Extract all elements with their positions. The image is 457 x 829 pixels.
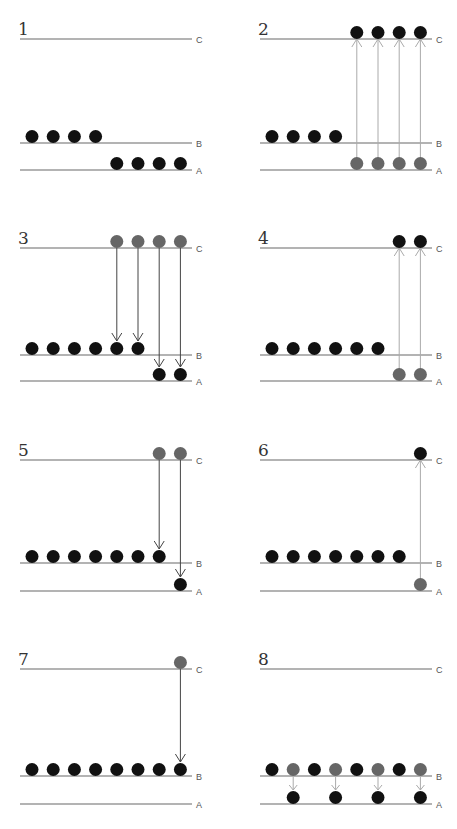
panel-number: 1 (18, 19, 29, 39)
level-label-c: C (196, 456, 203, 466)
excited-particle-b (414, 763, 427, 776)
panel-5: 5CBA (18, 440, 203, 597)
particle-b (287, 550, 300, 563)
particle-b (287, 342, 300, 355)
excited-particle-c (153, 235, 166, 248)
panel-4: 4CBA (258, 228, 443, 387)
excited-particle-a (414, 578, 427, 591)
level-label-a: A (436, 587, 442, 597)
panel-number: 2 (258, 19, 269, 39)
particle-b (329, 550, 342, 563)
particle-b (89, 130, 102, 143)
particle-a (110, 157, 123, 170)
arrow-up-icon (415, 248, 425, 370)
level-label-a: A (436, 377, 442, 387)
particle-a (414, 791, 427, 804)
particle-c (393, 235, 406, 248)
level-label-c: C (196, 35, 203, 45)
arrow-up-icon (352, 39, 362, 159)
excited-particle-a (350, 157, 363, 170)
panel-2: 2CBA (258, 19, 443, 176)
arrow-down-icon (289, 777, 297, 790)
arrow-down-icon (175, 460, 185, 577)
particle-b (47, 342, 60, 355)
excited-particle-c (110, 235, 123, 248)
particle-b (26, 130, 39, 143)
particle-b (308, 763, 321, 776)
level-label-b: B (436, 772, 442, 782)
level-label-b: B (196, 139, 202, 149)
particle-b (132, 342, 145, 355)
arrow-down-icon (374, 777, 382, 790)
level-label-a: A (196, 377, 202, 387)
arrow-down-icon (175, 248, 185, 367)
particle-a (174, 578, 187, 591)
particle-b (174, 763, 187, 776)
particle-b (132, 550, 145, 563)
panel-6: 6CBA (258, 440, 443, 597)
level-label-a: A (436, 166, 442, 176)
excited-particle-c (174, 235, 187, 248)
arrow-up-icon (394, 248, 404, 370)
level-label-c: C (196, 244, 203, 254)
particle-b (26, 342, 39, 355)
particle-a (174, 368, 187, 381)
level-label-b: B (196, 351, 202, 361)
panel-number: 3 (18, 228, 29, 248)
excited-particle-a (393, 157, 406, 170)
particle-b (393, 763, 406, 776)
particle-b (26, 763, 39, 776)
particle-b (68, 763, 81, 776)
arrow-down-icon (112, 248, 122, 341)
arrow-up-icon (415, 460, 425, 580)
level-label-b: B (436, 351, 442, 361)
particle-b (47, 550, 60, 563)
particle-b (308, 342, 321, 355)
excited-particle-c (174, 447, 187, 460)
particle-b (266, 342, 279, 355)
excited-particle-c (174, 656, 187, 669)
particle-b (110, 550, 123, 563)
excited-particle-b (287, 763, 300, 776)
excited-particle-a (372, 157, 385, 170)
level-label-a: A (196, 166, 202, 176)
level-label-c: C (436, 244, 443, 254)
level-label-a: A (196, 800, 202, 810)
level-label-b: B (196, 559, 202, 569)
panel-3: 3CBA (18, 228, 203, 387)
level-label-c: C (436, 35, 443, 45)
arrow-down-icon (154, 460, 164, 549)
excited-particle-c (132, 235, 145, 248)
particle-b (329, 342, 342, 355)
particle-b (110, 342, 123, 355)
particle-c (350, 26, 363, 39)
excited-particle-a (414, 157, 427, 170)
panel-8: 8CBA (258, 649, 443, 810)
level-label-b: B (436, 559, 442, 569)
particle-b (132, 763, 145, 776)
particle-c (414, 26, 427, 39)
particle-b (350, 550, 363, 563)
particle-b (350, 763, 363, 776)
particle-c (372, 26, 385, 39)
level-label-c: C (196, 665, 203, 675)
panel-number: 6 (258, 440, 269, 460)
particle-a (287, 791, 300, 804)
arrow-up-icon (373, 39, 383, 159)
panel-number: 4 (258, 228, 269, 248)
level-label-c: C (436, 456, 443, 466)
excited-particle-c (153, 447, 166, 460)
particle-c (393, 26, 406, 39)
particle-a (153, 157, 166, 170)
particle-b (329, 130, 342, 143)
particle-b (308, 130, 321, 143)
level-label-a: A (436, 800, 442, 810)
particle-b (68, 342, 81, 355)
excited-particle-b (329, 763, 342, 776)
particle-b (393, 550, 406, 563)
arrow-down-icon (133, 248, 143, 341)
level-label-c: C (436, 665, 443, 675)
particle-b (153, 550, 166, 563)
level-label-b: B (436, 139, 442, 149)
excited-particle-a (414, 368, 427, 381)
